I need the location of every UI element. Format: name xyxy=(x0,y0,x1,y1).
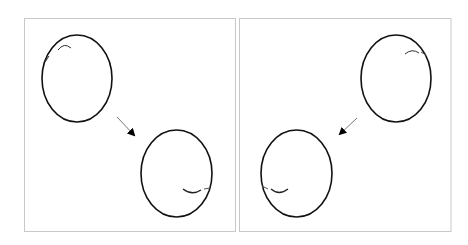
panel-left-frame xyxy=(25,19,236,232)
panel-right-frame xyxy=(240,19,452,232)
panel-right xyxy=(240,19,452,232)
diagram xyxy=(0,0,468,245)
panel-left xyxy=(25,19,236,232)
